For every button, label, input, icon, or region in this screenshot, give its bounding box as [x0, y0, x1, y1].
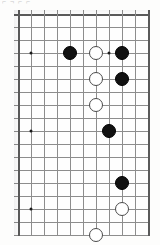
white-stone[interactable]: [89, 98, 103, 112]
grid-line-horizontal: [14, 40, 150, 41]
star-point: [108, 52, 111, 55]
star-point: [30, 52, 33, 55]
grid-line-horizontal: [14, 209, 150, 210]
white-stone[interactable]: [115, 202, 129, 216]
white-stone[interactable]: [89, 72, 103, 86]
grid-line-vertical: [148, 10, 150, 236]
grid-line-vertical: [96, 10, 97, 236]
grid-line-vertical: [31, 10, 32, 236]
diagram-page: ⌐ ¬ ⌐ ⌐: [0, 0, 160, 245]
grid-line-horizontal: [14, 144, 150, 145]
star-point: [30, 208, 33, 211]
white-stone[interactable]: [89, 46, 103, 60]
grid-line-horizontal: [14, 92, 150, 93]
grid-line-vertical: [135, 10, 136, 236]
grid-line-vertical: [70, 10, 71, 236]
grid-line-vertical: [83, 10, 84, 236]
black-stone[interactable]: [115, 176, 129, 190]
grid-line-vertical: [109, 10, 110, 236]
grid-line-horizontal: [14, 105, 150, 106]
black-stone[interactable]: [115, 46, 129, 60]
grid-line-vertical: [18, 10, 20, 236]
grid-line-horizontal: [14, 118, 150, 119]
black-stone[interactable]: [102, 124, 116, 138]
black-stone[interactable]: [115, 72, 129, 86]
grid-line-horizontal: [14, 79, 150, 80]
go-board[interactable]: [14, 10, 150, 236]
grid-line-horizontal: [14, 183, 150, 184]
grid-line-horizontal: [14, 131, 150, 132]
grid-line-horizontal: [14, 14, 150, 16]
grid-line-horizontal: [14, 53, 150, 54]
board-background: [14, 10, 150, 236]
grid-line-horizontal: [14, 157, 150, 158]
grid-line-horizontal: [14, 222, 150, 223]
white-stone[interactable]: [89, 228, 103, 242]
black-stone[interactable]: [63, 46, 77, 60]
grid-line-vertical: [44, 10, 45, 236]
page-caption: ⌐ ¬ ⌐ ⌐: [2, 0, 31, 5]
grid-line-horizontal: [14, 235, 150, 236]
grid-line-horizontal: [14, 27, 150, 28]
grid-line-horizontal: [14, 66, 150, 67]
grid-line-vertical: [57, 10, 58, 236]
grid-line-horizontal: [14, 196, 150, 197]
star-point: [30, 130, 33, 133]
grid-line-horizontal: [14, 170, 150, 171]
